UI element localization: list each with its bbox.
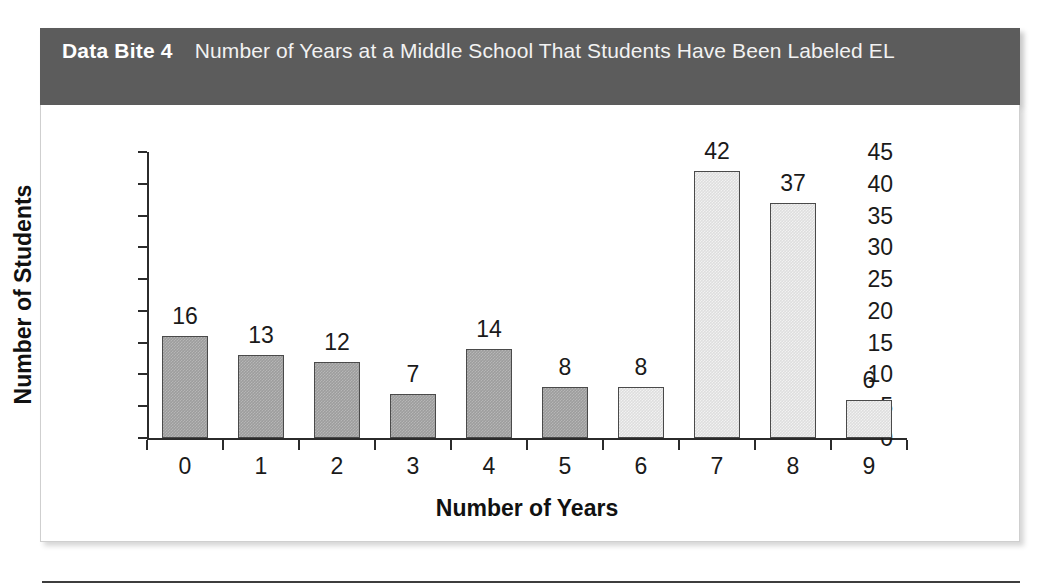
y-axis-tick [138, 151, 147, 153]
x-axis-title: Number of Years [147, 495, 907, 522]
x-axis-tick [222, 440, 224, 450]
x-axis-tick-label: 0 [179, 455, 192, 478]
figure-header-band: Data Bite 4 Number of Years at a Middle … [40, 28, 1020, 105]
bar [238, 355, 284, 438]
page-bottom-rule [42, 581, 1020, 583]
x-axis-tick [526, 440, 528, 450]
x-axis-tick [450, 440, 452, 450]
bar [314, 362, 360, 438]
x-axis-tick [602, 440, 604, 450]
bar-value-label: 6 [863, 369, 876, 392]
x-axis-tick [754, 440, 756, 450]
x-axis-tick [298, 440, 300, 450]
bar-value-label: 7 [407, 363, 420, 386]
x-axis-tick [830, 440, 832, 450]
bar [542, 387, 588, 438]
bar-value-label: 12 [324, 331, 350, 354]
bar-value-label: 8 [635, 356, 648, 379]
y-axis-tick-label: 20 [847, 299, 893, 322]
bar-value-label: 13 [248, 324, 274, 347]
bar-value-label: 16 [172, 305, 198, 328]
x-axis-tick-label: 2 [331, 455, 344, 478]
bar [618, 387, 664, 438]
y-axis-tick-label: 30 [847, 236, 893, 259]
y-axis-tick-label: 35 [847, 204, 893, 227]
y-axis-tick [138, 405, 147, 407]
y-axis-tick [138, 310, 147, 312]
y-axis-title: Number of Students [10, 170, 37, 420]
x-axis-tick-label: 5 [559, 455, 572, 478]
x-axis-tick [374, 440, 376, 450]
y-axis-tick-label: 45 [847, 141, 893, 164]
figure-title: Number of Years at a Middle School That … [195, 37, 895, 64]
x-axis-tick [906, 440, 908, 450]
x-axis-tick [678, 440, 680, 450]
y-axis-tick [138, 278, 147, 280]
y-axis-tick-label: 25 [847, 268, 893, 291]
bar-value-label: 8 [559, 356, 572, 379]
y-axis-tick-label: 40 [847, 172, 893, 195]
bar-value-label: 42 [704, 140, 730, 163]
bar [694, 171, 740, 438]
plot-area: 051015202530354045 0123456789 1613127148… [147, 152, 907, 438]
data-bite-label: Data Bite 4 [62, 37, 195, 64]
y-axis-line [147, 152, 149, 439]
bar [770, 203, 816, 438]
bar [466, 349, 512, 438]
x-axis-tick-label: 4 [483, 455, 496, 478]
y-axis-tick-label: 15 [847, 331, 893, 354]
x-axis-tick-label: 7 [711, 455, 724, 478]
x-axis-tick-label: 6 [635, 455, 648, 478]
x-axis-tick-label: 3 [407, 455, 420, 478]
x-axis-tick-label: 8 [787, 455, 800, 478]
bar-value-label: 37 [780, 172, 806, 195]
bar [846, 400, 892, 438]
chart-panel: 051015202530354045 0123456789 1613127148… [40, 105, 1020, 542]
bar [162, 336, 208, 438]
y-axis-tick [138, 215, 147, 217]
y-axis-tick [138, 437, 147, 439]
data-bite-figure: Data Bite 4 Number of Years at a Middle … [40, 28, 1020, 542]
y-axis-tick [138, 246, 147, 248]
x-axis-tick [146, 440, 148, 450]
bar [390, 394, 436, 438]
y-axis-tick [138, 183, 147, 185]
bar-value-label: 14 [476, 318, 502, 341]
y-axis-tick [138, 342, 147, 344]
x-axis-tick-label: 9 [863, 455, 876, 478]
y-axis-tick [138, 373, 147, 375]
x-axis-tick-label: 1 [255, 455, 268, 478]
